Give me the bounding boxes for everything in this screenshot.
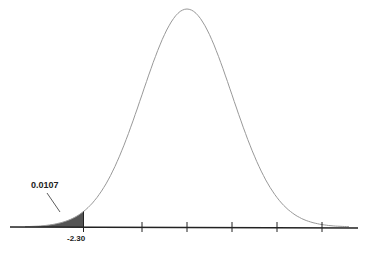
- bell-curve: [25, 9, 349, 227]
- z-tick-label: -2.30: [67, 234, 85, 243]
- annotation-leader-line: [47, 193, 60, 212]
- area-label: 0.0107: [31, 180, 59, 190]
- normal-curve-chart: [0, 0, 367, 255]
- x-axis: [10, 227, 358, 228]
- axis-ticks: [84, 212, 323, 232]
